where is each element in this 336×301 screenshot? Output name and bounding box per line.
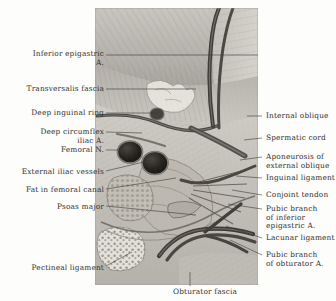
label-deep-inguinal-ring: Deep inguinal ring: [8, 109, 104, 118]
illustration-artwork: [95, 8, 258, 285]
anatomy-illustration: [95, 8, 258, 285]
label-femoral-nerve: Femoral N.: [8, 146, 104, 155]
label-pubic-branch-inferior-epigastric: Pubic branch of inferior epigastric A.: [266, 205, 336, 231]
label-lacunar-ligament: Lacunar ligament: [266, 234, 336, 243]
label-pectineal-ligament: Pectineal ligament: [8, 264, 104, 273]
label-spermatic-cord: Spermatic cord: [266, 134, 336, 143]
label-conjoint-tendon: Conjoint tendon: [266, 191, 336, 200]
label-inferior-epigastric-artery: Inferior epigastric A.: [8, 50, 104, 67]
label-obturator-fascia: Obturator fascia: [160, 288, 250, 297]
label-external-iliac-vessels: External iliac vessels: [0, 168, 104, 177]
label-psoas-major: Psoas major: [8, 203, 104, 212]
label-inguinal-ligament: Inguinal ligament: [266, 174, 336, 183]
label-fat-in-femoral-canal: Fat in femoral canal: [4, 186, 104, 195]
label-deep-circumflex-iliac-artery: Deep circumflex iliac A.: [8, 128, 104, 145]
label-internal-oblique: Internal oblique: [266, 112, 336, 121]
anatomical-plate: Inferior epigastric A.Transversalis fasc…: [0, 0, 336, 301]
label-transversalis-fascia: Transversalis fascia: [8, 85, 104, 94]
label-aponeurosis-external-oblique: Aponeurosis of external oblique: [266, 153, 336, 170]
label-pubic-branch-obturator: Pubic branch of obturator A.: [266, 251, 336, 268]
